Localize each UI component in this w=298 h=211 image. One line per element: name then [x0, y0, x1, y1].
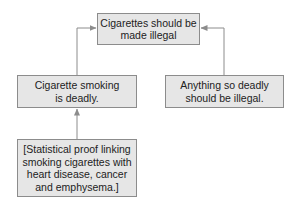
argument-diagram: Cigarettes should be made illegal Cigare… — [0, 0, 298, 211]
premise-2-box: Anything so deadly should be illegal. — [165, 75, 284, 108]
premise-2-line-1: Anything so deadly — [180, 79, 269, 92]
evidence-line-4: and emphysema.] — [35, 181, 118, 194]
premise-1-line-1: Cigarette smoking — [35, 79, 120, 92]
premise-2-line-2: should be illegal. — [185, 92, 263, 105]
arrow-premise1-to-conclusion — [77, 28, 96, 75]
premise-1-box: Cigarette smoking is deadly. — [17, 75, 137, 108]
conclusion-box: Cigarettes should be made illegal — [97, 13, 200, 45]
evidence-line-1: [Statistical proof linking — [23, 143, 130, 156]
conclusion-line-2: made illegal — [120, 29, 176, 42]
evidence-line-2: smoking cigarettes with — [22, 156, 131, 169]
evidence-line-3: heart disease, cancer — [27, 168, 127, 181]
premise-1-line-2: is deadly. — [55, 92, 99, 105]
conclusion-line-1: Cigarettes should be — [100, 17, 196, 30]
arrow-premise2-to-conclusion — [201, 28, 224, 75]
evidence-box: [Statistical proof linking smoking cigar… — [17, 139, 137, 197]
